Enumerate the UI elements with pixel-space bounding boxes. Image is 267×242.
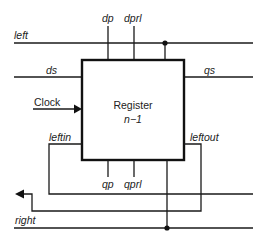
dprl-label: dprl — [124, 12, 142, 24]
left-label: left — [14, 29, 29, 41]
leftout-label: leftout — [190, 131, 220, 143]
qprl-label: qprl — [124, 178, 142, 190]
dp-label: dp — [102, 12, 114, 24]
register-diagram: left ds qs dp dprl Clock leftin leftout … — [0, 0, 267, 242]
right-label: right — [15, 214, 37, 226]
clock-label: Clock — [34, 96, 61, 108]
left-bus-junction-dot — [162, 40, 167, 45]
ds-label: ds — [46, 64, 58, 76]
qs-label: qs — [204, 64, 216, 76]
register-title: Register — [113, 99, 153, 111]
leftout-arrow-icon — [15, 190, 24, 199]
register-subtitle: n−1 — [124, 113, 142, 125]
qp-label: qp — [102, 178, 114, 190]
leftin-label: leftin — [49, 131, 71, 143]
right-bus-junction-dot — [164, 225, 169, 230]
